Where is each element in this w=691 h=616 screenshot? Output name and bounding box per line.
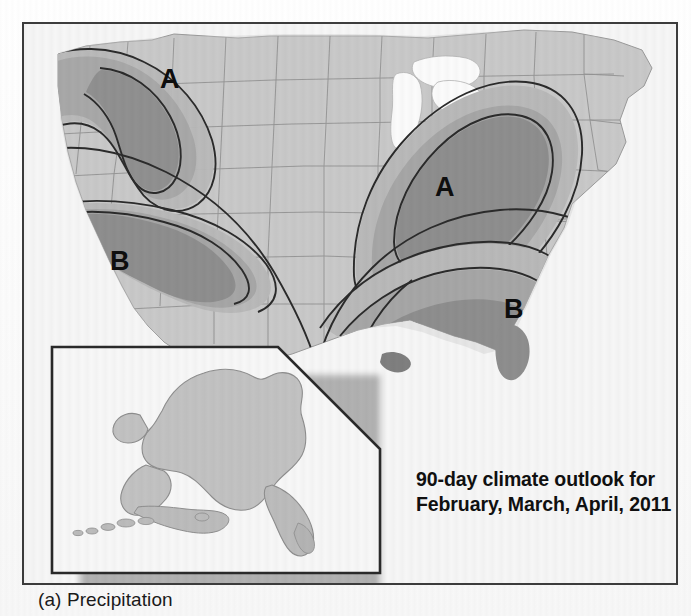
outlook-annotation: 90-day climate outlook for February, Mar… (416, 467, 678, 517)
label-b-southeast: B (504, 296, 524, 323)
figure-frame: A B A B (22, 22, 678, 585)
label-b-southwest: B (110, 248, 130, 275)
annotation-line-2: February, March, April, 2011 (416, 492, 678, 517)
figure-caption: (a) Precipitation (38, 589, 173, 611)
label-a-midwest: A (435, 174, 455, 201)
annotation-line-1: 90-day climate outlook for (416, 467, 678, 492)
alaska-inset (50, 345, 386, 577)
label-a-northwest: A (160, 66, 180, 93)
